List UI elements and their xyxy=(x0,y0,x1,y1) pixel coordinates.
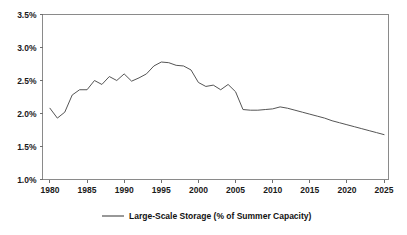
series-line-large-scale-storage xyxy=(50,62,384,135)
plot-frame xyxy=(43,15,389,180)
y-axis-ticks: 3.5%3.0%2.5%2.0%1.5%1.0% xyxy=(17,10,42,185)
y-tick-label: 3.0% xyxy=(17,43,37,53)
y-tick-label: 3.5% xyxy=(17,10,37,20)
chart-figure: 3.5%3.0%2.5%2.0%1.5%1.0% 198019851990199… xyxy=(0,0,407,235)
x-tick-label: 2000 xyxy=(189,185,208,195)
y-tick-label: 2.5% xyxy=(17,76,37,86)
x-axis-ticks: 1980198519901995200020052010201520202025 xyxy=(40,180,393,195)
x-tick-label: 2020 xyxy=(337,185,356,195)
y-tick-label: 1.5% xyxy=(17,142,37,152)
x-tick-label: 1995 xyxy=(152,185,171,195)
x-tick-label: 1985 xyxy=(78,185,97,195)
x-tick-label: 2010 xyxy=(263,185,282,195)
line-chart: 3.5%3.0%2.5%2.0%1.5%1.0% 198019851990199… xyxy=(0,0,407,235)
y-tick-label: 2.0% xyxy=(17,109,37,119)
legend-label: Large-Scale Storage (% of Summer Capacit… xyxy=(129,211,312,221)
x-tick-label: 1980 xyxy=(40,185,59,195)
x-tick-label: 1990 xyxy=(115,185,134,195)
x-tick-label: 2005 xyxy=(226,185,245,195)
series-group xyxy=(50,62,384,135)
x-tick-label: 2025 xyxy=(375,185,394,195)
chart-legend: Large-Scale Storage (% of Summer Capacit… xyxy=(102,211,312,221)
x-tick-label: 2015 xyxy=(300,185,319,195)
y-tick-label: 1.0% xyxy=(17,175,37,185)
